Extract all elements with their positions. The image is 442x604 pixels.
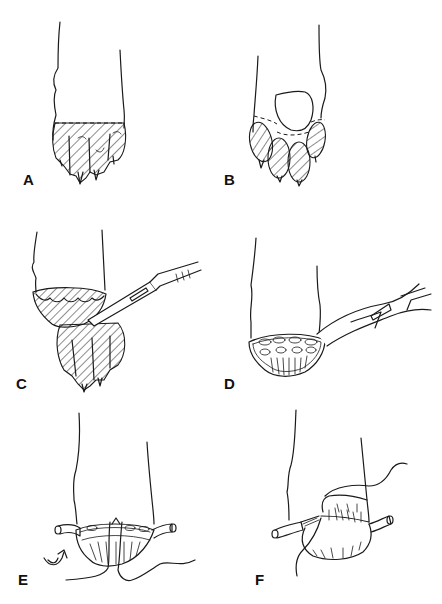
panel-f: F: [221, 400, 442, 604]
panel-label-e: E: [18, 572, 28, 587]
paw-drawing-c: [0, 200, 221, 400]
panel-label-d: D: [224, 376, 235, 391]
panel-a: A: [0, 0, 221, 200]
panel-label-a: A: [23, 172, 34, 187]
panel-label-f: F: [255, 572, 264, 587]
paw-drawing-a: [0, 0, 221, 200]
panel-label-b: B: [224, 172, 235, 187]
paw-drawing-e: [0, 400, 221, 604]
panel-d: D: [221, 200, 442, 400]
paw-drawing-b: [221, 0, 442, 200]
surgical-illustration-figure: A: [0, 0, 442, 604]
panel-label-c: C: [16, 376, 27, 391]
panel-b: B: [221, 0, 442, 200]
paw-drawing-d: [221, 200, 442, 400]
panel-c: C: [0, 200, 221, 400]
panel-e: E: [0, 400, 221, 604]
